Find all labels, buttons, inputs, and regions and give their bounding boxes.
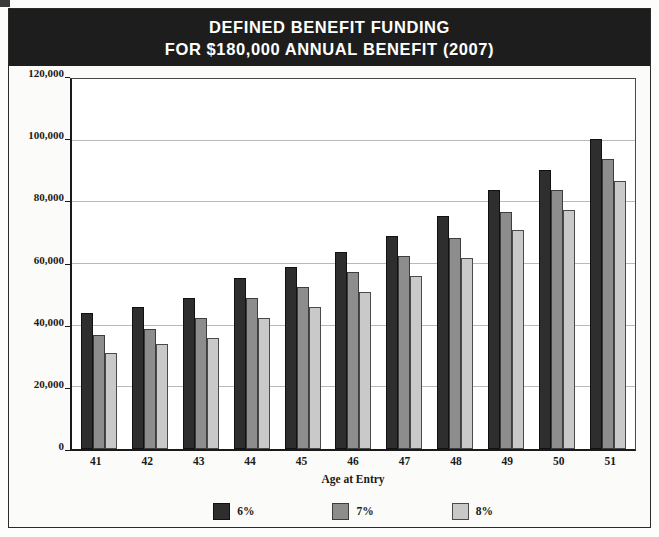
bar-7pct-age-43	[195, 318, 207, 449]
x-axis-tick-label-48: 48	[436, 455, 476, 467]
bar-6pct-age-51	[590, 139, 602, 449]
legend-swatch-icon	[213, 503, 230, 520]
y-axis-tick-mark	[65, 77, 70, 78]
bar-7pct-age-49	[500, 212, 512, 449]
legend-item-8pct: 8%	[452, 503, 493, 520]
bar-7pct-age-46	[347, 272, 359, 449]
bar-group-age-42	[132, 79, 168, 449]
bar-group-age-50	[539, 79, 575, 449]
x-axis-tick-label-50: 50	[539, 455, 579, 467]
bar-group-age-46	[335, 79, 371, 449]
chart-title-line-2: FOR $180,000 ANNUAL BENEFIT (2007)	[165, 38, 494, 60]
y-axis-tick-label: 40,000	[34, 316, 64, 328]
bar-8pct-age-44	[258, 318, 270, 449]
x-axis-tick-label-45: 45	[282, 455, 322, 467]
plot-area	[70, 78, 636, 451]
x-axis-tick-label-44: 44	[230, 455, 270, 467]
bar-8pct-age-46	[359, 292, 371, 449]
bar-6pct-age-42	[132, 307, 144, 449]
y-axis-tick-mark	[65, 326, 70, 327]
x-axis-tick-labels: 4142434445464748495051	[70, 455, 636, 473]
bar-groups	[72, 79, 635, 449]
x-axis-tick-label-42: 42	[127, 455, 167, 467]
bar-7pct-age-50	[551, 190, 563, 449]
bar-7pct-age-42	[144, 329, 156, 449]
bar-group-age-49	[488, 79, 524, 449]
y-axis-tick-label: 80,000	[34, 191, 64, 203]
bar-6pct-age-48	[437, 216, 449, 449]
bar-group-age-44	[234, 79, 270, 449]
x-axis-tick-label-49: 49	[487, 455, 527, 467]
x-axis-tick-label-41: 41	[76, 455, 116, 467]
legend-swatch-icon	[332, 503, 349, 520]
bar-7pct-age-47	[398, 256, 410, 449]
chart-page: DEFINED BENEFIT FUNDING FOR $180,000 ANN…	[0, 0, 659, 537]
plot-wrapper: 020,00040,00060,00080,000100,000120,000	[70, 78, 636, 451]
bar-8pct-age-42	[156, 344, 168, 449]
legend-label: 6%	[237, 505, 254, 517]
bar-group-age-47	[386, 79, 422, 449]
y-axis-tick-label: 60,000	[34, 254, 64, 266]
bar-8pct-age-48	[461, 258, 473, 449]
chart-title-line-1: DEFINED BENEFIT FUNDING	[209, 16, 450, 38]
bar-6pct-age-49	[488, 190, 500, 449]
bar-6pct-age-43	[183, 298, 195, 449]
y-axis-tick-mark	[65, 450, 70, 451]
bar-7pct-age-51	[602, 159, 614, 449]
bar-group-age-48	[437, 79, 473, 449]
bar-group-age-41	[81, 79, 117, 449]
bar-7pct-age-45	[297, 287, 309, 449]
bar-7pct-age-44	[246, 298, 258, 449]
bar-8pct-age-45	[309, 307, 321, 449]
bar-8pct-age-41	[105, 353, 117, 449]
legend-item-7pct: 7%	[332, 503, 373, 520]
chart-legend: 6%7%8%	[70, 500, 636, 522]
bar-8pct-age-49	[512, 230, 524, 449]
y-axis-tick-mark	[65, 139, 70, 140]
y-axis-tick-label: 0	[59, 440, 65, 452]
bar-7pct-age-48	[449, 238, 461, 449]
page-corner-artifact	[0, 0, 10, 7]
y-axis-tick-label: 120,000	[28, 67, 64, 79]
x-axis-tick-label-46: 46	[333, 455, 373, 467]
x-axis-tick-label-47: 47	[384, 455, 424, 467]
y-axis-tick-mark	[65, 201, 70, 202]
bar-group-age-51	[590, 79, 626, 449]
legend-label: 8%	[476, 505, 493, 517]
bar-6pct-age-45	[285, 267, 297, 449]
bar-6pct-age-44	[234, 278, 246, 449]
bar-8pct-age-51	[614, 181, 626, 449]
x-axis-title: Age at Entry	[70, 473, 636, 485]
legend-label: 7%	[356, 505, 373, 517]
bar-8pct-age-47	[410, 276, 422, 449]
bar-group-age-43	[183, 79, 219, 449]
bar-6pct-age-46	[335, 252, 347, 449]
bar-6pct-age-41	[81, 313, 93, 449]
x-axis-tick-label-43: 43	[179, 455, 219, 467]
x-axis-tick-label-51: 51	[590, 455, 630, 467]
bar-7pct-age-41	[93, 335, 105, 449]
bar-8pct-age-43	[207, 338, 219, 449]
chart-title-banner: DEFINED BENEFIT FUNDING FOR $180,000 ANN…	[9, 9, 650, 66]
y-axis-tick-mark	[65, 388, 70, 389]
bar-6pct-age-50	[539, 170, 551, 449]
y-axis-tick-mark	[65, 264, 70, 265]
bar-6pct-age-47	[386, 236, 398, 449]
legend-swatch-icon	[452, 503, 469, 520]
bar-group-age-45	[285, 79, 321, 449]
y-axis-tick-label: 20,000	[34, 378, 64, 390]
y-axis-tick-label: 100,000	[28, 129, 64, 141]
legend-item-6pct: 6%	[213, 503, 254, 520]
bar-8pct-age-50	[563, 210, 575, 449]
